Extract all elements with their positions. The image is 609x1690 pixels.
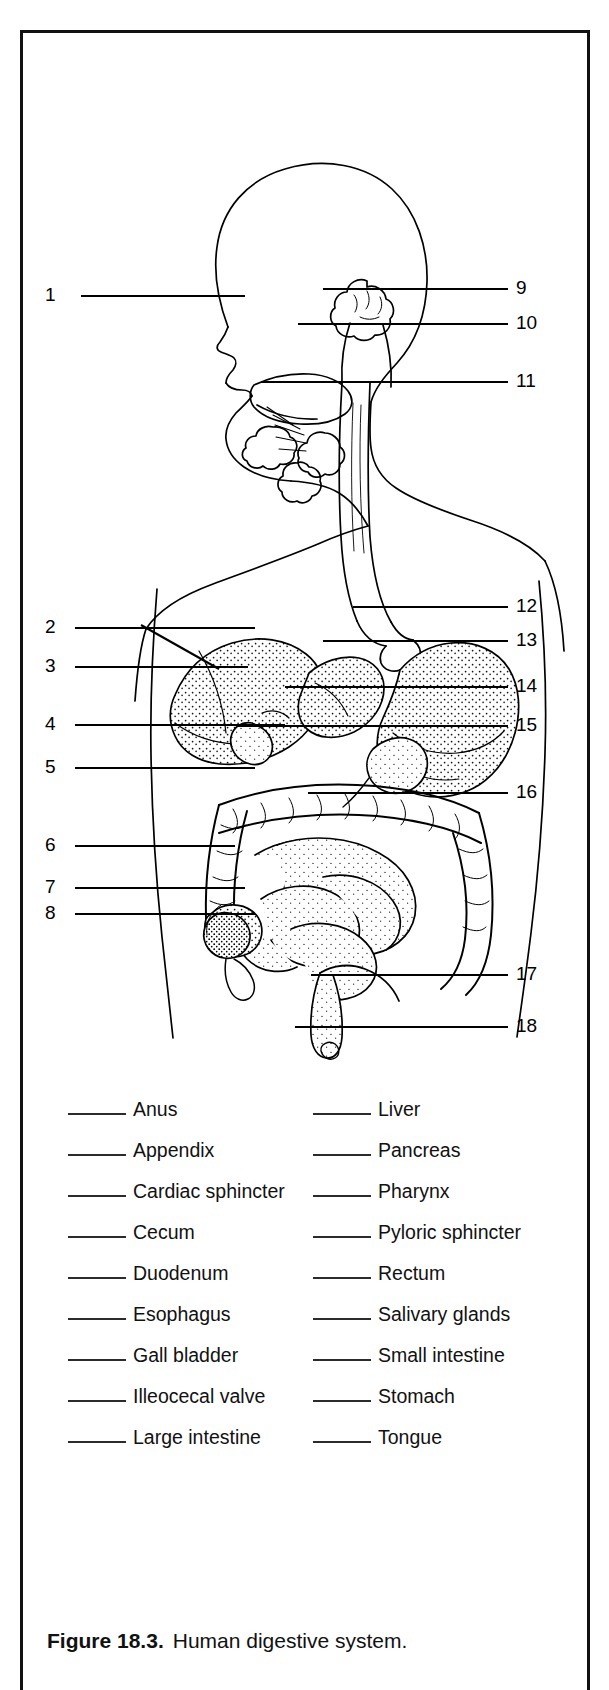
answer-blank[interactable]	[313, 1224, 371, 1238]
answer-blank[interactable]	[313, 1265, 371, 1279]
answer-blank[interactable]	[68, 1224, 126, 1238]
word-bank-item-cardiac-sphincter[interactable]: Cardiac sphincter	[68, 1177, 285, 1197]
word-bank: Anus Appendix Cardiac sphincter Cecum Du…	[23, 1095, 588, 1445]
figure-plate: 1 2 3 4 5 6 7 8 9 10 11 12 13 14 15 16 1…	[20, 30, 590, 1690]
word-bank-label: Appendix	[133, 1140, 214, 1160]
word-bank-label: Liver	[378, 1099, 420, 1119]
word-bank-item-duodenum[interactable]: Duodenum	[68, 1259, 228, 1279]
word-bank-label: Stomach	[378, 1386, 455, 1406]
answer-blank[interactable]	[313, 1183, 371, 1197]
word-bank-item-cecum[interactable]: Cecum	[68, 1218, 195, 1238]
word-bank-label: Salivary glands	[378, 1304, 510, 1324]
callout-number-7: 7	[45, 877, 56, 896]
callout-number-16: 16	[516, 782, 537, 801]
word-bank-item-salivary-glands[interactable]: Salivary glands	[313, 1300, 510, 1320]
answer-blank[interactable]	[68, 1306, 126, 1320]
answer-blank[interactable]	[313, 1101, 371, 1115]
figure-caption: Figure 18.3.Human digestive system.	[47, 1628, 587, 1654]
callout-number-8: 8	[45, 903, 56, 922]
word-bank-item-pharynx[interactable]: Pharynx	[313, 1177, 450, 1197]
callout-number-18: 18	[516, 1016, 537, 1035]
large-intestine-descending	[441, 813, 493, 995]
word-bank-item-esophagus[interactable]: Esophagus	[68, 1300, 231, 1320]
callout-number-4: 4	[45, 714, 56, 733]
answer-blank[interactable]	[313, 1347, 371, 1361]
word-bank-label: Esophagus	[133, 1304, 231, 1324]
answer-blank[interactable]	[68, 1142, 126, 1156]
callout-number-13: 13	[516, 630, 537, 649]
word-bank-item-rectum[interactable]: Rectum	[313, 1259, 445, 1279]
answer-blank[interactable]	[313, 1306, 371, 1320]
answer-blank[interactable]	[313, 1388, 371, 1402]
callout-number-6: 6	[45, 835, 56, 854]
answer-blank[interactable]	[68, 1429, 126, 1443]
callout-number-9: 9	[516, 278, 527, 297]
anatomy-line-drawing	[23, 33, 588, 1063]
callout-number-1: 1	[45, 285, 56, 304]
word-bank-label: Pharynx	[378, 1181, 450, 1201]
callout-number-17: 17	[516, 964, 537, 983]
word-bank-item-gall-bladder[interactable]: Gall bladder	[68, 1341, 238, 1361]
word-bank-label: Tongue	[378, 1427, 442, 1447]
appendix	[225, 959, 254, 1000]
word-bank-label: Small intestine	[378, 1345, 505, 1365]
large-intestine-ascending	[206, 805, 247, 921]
word-bank-label: Anus	[133, 1099, 177, 1119]
digestive-system-illustration: 1 2 3 4 5 6 7 8 9 10 11 12 13 14 15 16 1…	[23, 33, 588, 1063]
word-bank-item-small-intestine[interactable]: Small intestine	[313, 1341, 505, 1361]
answer-blank[interactable]	[313, 1429, 371, 1443]
word-bank-label: Duodenum	[133, 1263, 228, 1283]
word-bank-label: Pancreas	[378, 1140, 460, 1160]
word-bank-item-liver[interactable]: Liver	[313, 1095, 420, 1115]
figure-caption-label: Figure 18.3.	[47, 1629, 164, 1652]
word-bank-item-pancreas[interactable]: Pancreas	[313, 1136, 460, 1156]
answer-blank[interactable]	[68, 1101, 126, 1115]
callout-number-11: 11	[516, 371, 536, 390]
answer-blank[interactable]	[313, 1142, 371, 1156]
callout-number-3: 3	[45, 656, 56, 675]
pharynx	[331, 280, 394, 387]
word-bank-item-anus[interactable]: Anus	[68, 1095, 177, 1115]
word-bank-item-stomach[interactable]: Stomach	[313, 1382, 455, 1402]
word-bank-item-pyloric-sphincter[interactable]: Pyloric sphincter	[313, 1218, 521, 1238]
head-profile-outline	[216, 163, 427, 526]
word-bank-item-large-intestine[interactable]: Large intestine	[68, 1423, 261, 1443]
callout-number-2: 2	[45, 617, 56, 636]
word-bank-label: Pyloric sphincter	[378, 1222, 521, 1242]
answer-blank[interactable]	[68, 1183, 126, 1197]
figure-caption-text: Human digestive system.	[173, 1629, 408, 1652]
callout-number-15: 15	[516, 715, 537, 734]
callout-number-10: 10	[516, 313, 537, 332]
word-bank-label: Large intestine	[133, 1427, 261, 1447]
word-bank-label: Cardiac sphincter	[133, 1181, 285, 1201]
callout-number-5: 5	[45, 757, 56, 776]
word-bank-label: Gall bladder	[133, 1345, 238, 1365]
answer-blank[interactable]	[68, 1388, 126, 1402]
duodenum	[343, 738, 427, 807]
answer-blank[interactable]	[68, 1347, 126, 1361]
callout-number-14: 14	[516, 676, 537, 695]
word-bank-item-tongue[interactable]: Tongue	[313, 1423, 442, 1443]
callout-number-12: 12	[516, 596, 537, 615]
word-bank-label: Illeocecal valve	[133, 1386, 265, 1406]
word-bank-item-illeocecal-valve[interactable]: Illeocecal valve	[68, 1382, 265, 1402]
word-bank-item-appendix[interactable]: Appendix	[68, 1136, 214, 1156]
word-bank-label: Cecum	[133, 1222, 195, 1242]
answer-blank[interactable]	[68, 1265, 126, 1279]
word-bank-label: Rectum	[378, 1263, 445, 1283]
